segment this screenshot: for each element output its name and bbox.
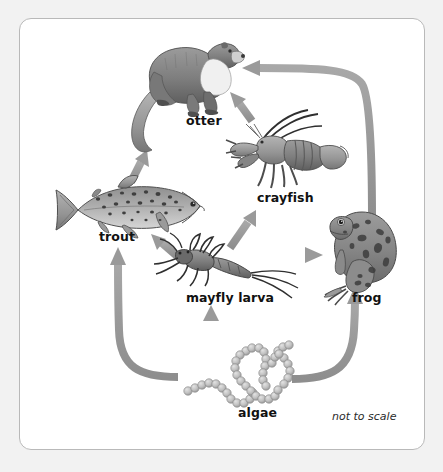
mayfly-larva-icon [154,233,298,298]
arrow-mayfly-to-crayfish [230,210,256,248]
arrow-crayfish-to-otter [230,92,252,121]
arrow-algae-to-trout [110,247,178,377]
food-web-canvas [0,0,443,472]
node-label-crayfish: crayfish [257,190,314,205]
node-label-algae: algae [238,405,277,420]
arrow-mayfly-to-trout [151,234,177,256]
arrow-mayfly-to-frog [256,247,323,263]
food-web-diagram: otter crayfish trout mayfly larva frog a… [0,0,443,472]
otter-icon [132,42,245,152]
node-label-mayfly-larva: mayfly larva [186,290,274,305]
node-label-otter: otter [186,113,222,128]
node-label-frog: frog [352,290,382,305]
algae-icon [184,341,294,407]
node-label-trout: trout [99,229,135,244]
arrow-algae-to-mayfly [203,305,219,345]
scale-note: not to scale [332,410,396,423]
crayfish-icon [226,110,348,188]
